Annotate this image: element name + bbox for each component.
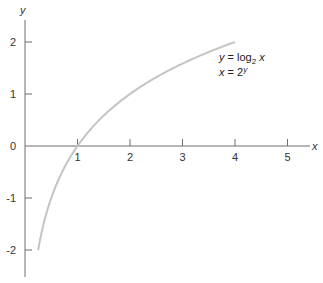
equation-line-2: x = 2y: [218, 65, 248, 78]
y-tick-label: -2: [6, 244, 16, 256]
x-tick-label: 3: [179, 151, 185, 163]
x-tick-label: 2: [127, 151, 133, 163]
y-tick-label: 2: [10, 36, 16, 48]
x-tick-label: 1: [74, 151, 80, 163]
x-axis-label: x: [311, 140, 318, 152]
x-tick-label: 4: [232, 151, 238, 163]
axes: y x: [19, 4, 318, 277]
x-tick-label: 5: [284, 151, 290, 163]
y-tick-label: 0: [10, 140, 16, 152]
log-chart: y x 12345 210-1-2 y = log2 x x = 2y: [0, 0, 323, 283]
equation-label: y = log2 x x = 2y: [218, 51, 265, 78]
y-tick-label: 1: [10, 88, 16, 100]
y-tick-label: -1: [6, 192, 16, 204]
y-axis-label: y: [19, 4, 27, 16]
x-ticks: 12345: [74, 139, 290, 163]
equation-line-1: y = log2 x: [218, 51, 265, 66]
